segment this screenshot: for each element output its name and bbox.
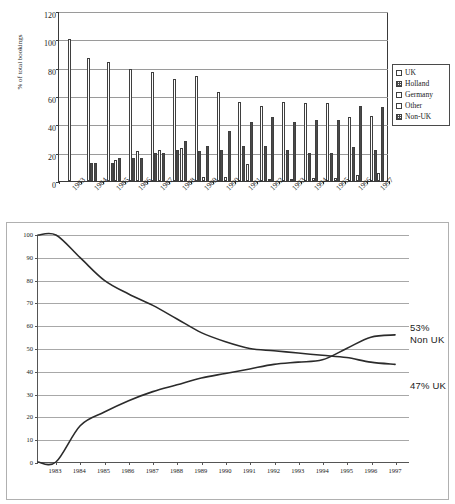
- line-x-label-1997: 1997: [389, 467, 402, 474]
- bar-1985-germany: [114, 160, 117, 181]
- bar-y-tick-60: 60: [26, 97, 56, 105]
- bar-group-1993: [278, 12, 300, 181]
- annotation-non-uk-label: Non UK: [410, 334, 444, 345]
- bar-1992-holland: [264, 146, 267, 181]
- annotation-non-uk: 53% Non UK: [410, 322, 444, 345]
- bar-y-tick-120: 120: [26, 12, 56, 20]
- bar-1993-holland: [286, 150, 289, 181]
- bar-group-1985: [103, 12, 125, 181]
- bar-group-1995: [322, 12, 344, 181]
- line-x-tickmark-1986: [129, 462, 130, 465]
- line-x-tickmark-1987: [153, 462, 154, 465]
- bar-group-1984: [81, 12, 103, 181]
- bar-group-1997: [366, 12, 388, 181]
- line-x-tickmark-1988: [177, 462, 178, 465]
- line-x-tickmark-1985: [105, 462, 106, 465]
- bar-1986-holland: [132, 158, 135, 181]
- bar-1989-holland: [198, 151, 201, 181]
- line-x-tickmark-1997: [396, 462, 397, 465]
- line-x-label-1993: 1993: [291, 467, 304, 474]
- legend-item-germany[interactable]: Germany: [396, 89, 446, 100]
- bar-group-1994: [300, 12, 322, 181]
- bar-1990-non-uk: [228, 131, 231, 181]
- legend-swatch-icon-germany: [396, 92, 402, 98]
- line-x-tickmark-1993: [299, 462, 300, 465]
- line-y-tick-80: 80: [11, 278, 33, 285]
- line-x-label-1989: 1989: [194, 467, 207, 474]
- bar-chart-x-tick-labels: 1983198419851986198719881989199019911992…: [58, 184, 388, 210]
- line-x-tickmark-1995: [347, 462, 348, 465]
- line-y-tick-100: 100: [11, 232, 33, 239]
- bar-1988-uk: [173, 79, 176, 181]
- line-x-tickmark-1991: [250, 462, 251, 465]
- bar-1992-uk: [260, 106, 263, 181]
- bar-1992-other: [268, 179, 271, 181]
- bar-1987-uk: [151, 72, 154, 181]
- bar-chart-y-tick-labels: 020406080100120: [26, 8, 56, 186]
- legend-item-uk[interactable]: UK: [396, 67, 446, 78]
- bar-group-1988: [169, 12, 191, 181]
- line-y-tick-90: 90: [11, 255, 33, 262]
- bar-1991-other: [246, 164, 249, 181]
- line-x-label-1995: 1995: [340, 467, 353, 474]
- bar-1990-holland: [220, 150, 223, 181]
- legend-item-other[interactable]: Other: [396, 100, 446, 111]
- line-chart-x-tick-labels: 1983198419851986198719881989199019911992…: [37, 467, 409, 481]
- bar-1986-other: [136, 151, 139, 181]
- legend-swatch-icon-non-uk: [396, 114, 402, 120]
- bar-1993-other: [290, 179, 293, 181]
- line-x-label-1985: 1985: [97, 467, 110, 474]
- bar-1995-non-uk: [337, 120, 340, 181]
- annotation-uk: 47% UK: [410, 380, 446, 391]
- line-x-label-1986: 1986: [121, 467, 134, 474]
- bar-1985-holland: [111, 163, 114, 181]
- bar-1989-other: [202, 177, 205, 181]
- bar-1993-uk: [282, 102, 285, 181]
- bar-group-1986: [125, 12, 147, 181]
- line-x-label-1990: 1990: [219, 467, 232, 474]
- bar-1994-other: [312, 178, 315, 181]
- legend-item-holland[interactable]: Holland: [396, 78, 446, 89]
- legend-label: Germany: [405, 90, 433, 99]
- bar-1990-uk: [217, 92, 220, 181]
- bar-y-tick-20: 20: [26, 154, 56, 162]
- line-x-tickmark-1990: [226, 462, 227, 465]
- bar-1985-uk: [107, 62, 110, 181]
- bar-1997-holland: [374, 150, 377, 181]
- bar-1988-germany: [180, 148, 183, 181]
- line-chart-plot-area: [37, 235, 409, 463]
- bar-1993-non-uk: [293, 122, 296, 182]
- bar-1996-non-uk: [359, 106, 362, 181]
- bar-chart-series-groups: [59, 12, 388, 181]
- bar-1986-uk: [129, 69, 132, 181]
- line-x-tickmark-1984: [80, 462, 81, 465]
- bar-1996-uk: [348, 117, 351, 181]
- line-y-tick-10: 10: [11, 437, 33, 444]
- legend-item-non-uk[interactable]: Non-UK: [396, 111, 446, 122]
- line-y-tick-20: 20: [11, 414, 33, 421]
- bar-1984-holland: [90, 163, 93, 181]
- bar-group-1992: [256, 12, 278, 181]
- line-y-tick-40: 40: [11, 369, 33, 376]
- bar-y-tick-100: 100: [26, 40, 56, 48]
- bar-group-1987: [147, 12, 169, 181]
- line-y-tick-0: 0: [11, 460, 33, 467]
- bar-1997-uk: [370, 116, 373, 181]
- bar-1989-uk: [195, 76, 198, 181]
- bar-1994-non-uk: [315, 120, 318, 181]
- bar-1991-non-uk: [250, 122, 253, 182]
- bar-1984-non-uk: [94, 163, 97, 181]
- bar-1991-holland: [242, 146, 245, 181]
- legend-label: Other: [405, 101, 422, 110]
- line-x-tickmark-1994: [323, 462, 324, 465]
- line-x-label-1992: 1992: [267, 467, 280, 474]
- legend-label: Non-UK: [405, 112, 431, 121]
- bar-1987-non-uk: [162, 153, 165, 181]
- line-x-label-1988: 1988: [170, 467, 183, 474]
- bar-1988-holland: [176, 150, 179, 181]
- bar-group-1990: [213, 12, 235, 181]
- bar-1984-uk: [87, 58, 90, 181]
- bar-group-1989: [191, 12, 213, 181]
- legend-label: Holland: [405, 79, 429, 88]
- bar-1990-other: [224, 177, 227, 181]
